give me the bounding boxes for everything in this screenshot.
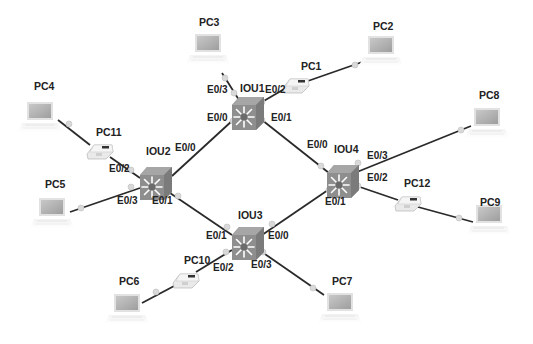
- link-pc12-pc9: [418, 207, 473, 222]
- link-pc10-pc6: [142, 285, 176, 303]
- link-iou2-iou3: [170, 193, 232, 235]
- switch-iou3[interactable]: [232, 227, 264, 260]
- port-label-iou1-e03: E0/3: [207, 84, 228, 95]
- port-label-iou1-e00: E0/0: [207, 112, 228, 123]
- laptop-pc3[interactable]: [186, 34, 230, 64]
- port-label-iou1-e01: E0/1: [271, 112, 292, 123]
- label-pc8: PC8: [479, 89, 500, 101]
- phone-pc11[interactable]: [87, 145, 113, 159]
- laptop-pc9[interactable]: [467, 205, 511, 235]
- port-label-iou3-e03: E0/3: [251, 259, 272, 270]
- laptop-pc8[interactable]: [465, 108, 509, 138]
- port-label-iou3-e02: E0/2: [213, 262, 234, 273]
- label-pc11: PC11: [96, 126, 122, 138]
- port-label-iou3-e00: E0/0: [268, 230, 289, 241]
- label-pc9: PC9: [480, 196, 501, 208]
- label-pc6: PC6: [119, 275, 140, 287]
- port-label-iou2-e02: E0/2: [109, 163, 130, 174]
- link-iou4-iou3: [262, 190, 328, 235]
- link-iou4-pc12: [357, 186, 398, 200]
- link-iou4-pc8: [357, 126, 471, 172]
- port-label-iou1-e02: E0/2: [265, 84, 286, 95]
- phone-pc1[interactable]: [283, 79, 309, 93]
- port-label-iou2-e03: E0/3: [117, 195, 138, 206]
- label-pc2: PC2: [373, 20, 394, 32]
- network-topology-diagram: PC3 PC2 PC1 IOU1 PC4 PC11 IOU2 PC5 PC8 I…: [0, 0, 533, 344]
- label-pc10: PC10: [184, 254, 210, 266]
- label-pc12: PC12: [404, 177, 430, 189]
- label-pc5: PC5: [45, 178, 66, 190]
- laptop-pc7[interactable]: [318, 293, 362, 323]
- port-label-iou4-e01: E0/1: [325, 196, 346, 207]
- port-label-iou2-e00: E0/0: [175, 142, 196, 153]
- label-iou4: IOU4: [334, 143, 359, 155]
- port-label-iou4-e02: E0/2: [367, 172, 388, 183]
- laptop-pc6[interactable]: [105, 294, 149, 324]
- label-pc3: PC3: [199, 16, 220, 28]
- switch-iou4[interactable]: [327, 165, 359, 198]
- label-iou1: IOU1: [240, 82, 265, 94]
- laptop-pc2[interactable]: [359, 36, 403, 66]
- port-label-iou4-e03: E0/3: [367, 150, 388, 161]
- switch-iou1[interactable]: [232, 97, 264, 130]
- port-label-iou2-e01: E0/1: [152, 195, 173, 206]
- label-iou2: IOU2: [146, 145, 171, 157]
- phone-pc10[interactable]: [173, 274, 199, 288]
- laptop-pc4[interactable]: [18, 102, 62, 132]
- link-pc11-pc4: [58, 120, 90, 145]
- label-pc7: PC7: [332, 275, 353, 287]
- port-label-iou3-e01: E0/1: [206, 230, 227, 241]
- port-label-iou4-e00: E0/0: [307, 139, 328, 150]
- label-iou3: IOU3: [238, 209, 263, 221]
- label-pc1: PC1: [301, 60, 322, 72]
- laptop-pc5[interactable]: [30, 198, 74, 228]
- label-pc4: PC4: [34, 80, 55, 92]
- phone-pc12[interactable]: [395, 197, 421, 211]
